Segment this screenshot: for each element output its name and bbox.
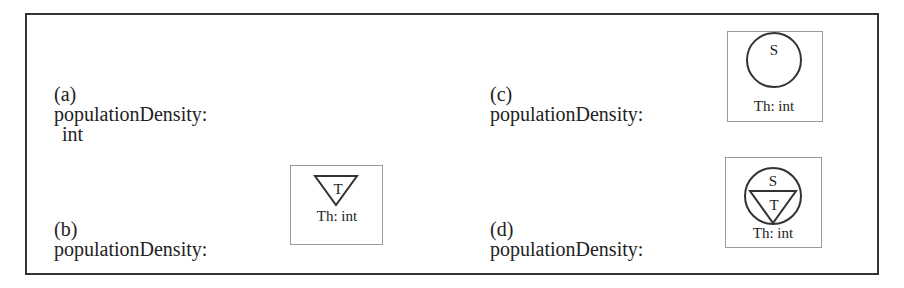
panel-d-symbol-box: S T Th: int — [725, 157, 822, 248]
temporal-triangle-icon: T Th: int — [291, 166, 384, 246]
panel-c-tag: (c) — [490, 83, 512, 105]
panel-b-label: (b) populationDensity: — [44, 199, 207, 259]
panel-c-symbol-box: S Th: int — [727, 31, 823, 122]
panel-a-attribute: populationDensity: — [54, 103, 207, 125]
panel-c-label: (c) populationDensity: — [480, 64, 643, 124]
panel-b-symbol-box: T Th: int — [290, 165, 383, 245]
panel-c-symbol-caption: Th: int — [754, 98, 795, 114]
spatial-circle-icon: S Th: int — [728, 32, 824, 123]
panel-d-symbol-letter-s: S — [769, 173, 777, 189]
panel-a-label: (a) populationDensity: int — [44, 64, 207, 144]
panel-b-tag: (b) — [54, 218, 77, 240]
panel-c-attribute: populationDensity: — [490, 103, 643, 125]
panel-a-type: int — [62, 123, 83, 145]
panel-d-attribute: populationDensity: — [490, 238, 643, 260]
panel-b-attribute: populationDensity: — [54, 238, 207, 260]
panel-d-symbol-letter-t: T — [769, 197, 778, 213]
panel-d-label: (d) populationDensity: — [480, 199, 643, 259]
panel-b-symbol-letter-t: T — [333, 181, 342, 197]
panel-d-tag: (d) — [490, 218, 513, 240]
panel-a-tag: (a) — [54, 83, 76, 105]
panel-c-symbol-letter-s: S — [770, 42, 778, 58]
panel-d-symbol-caption: Th: int — [753, 225, 794, 241]
panel-b-symbol-caption: Th: int — [317, 208, 358, 224]
spatiotemporal-circle-triangle-icon: S T Th: int — [726, 158, 823, 249]
